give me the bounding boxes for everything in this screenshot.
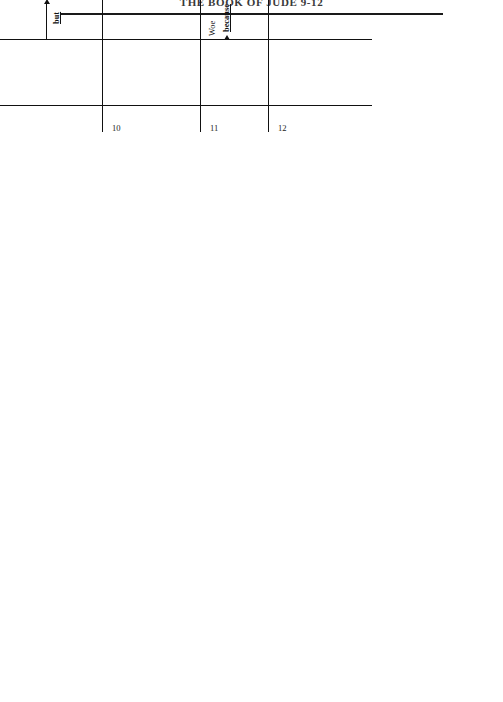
table-rule-v10-v11 <box>200 0 201 132</box>
diagram-table: V. Outline Conjunctions Work from main c… <box>0 0 372 132</box>
v9-but-lead <box>46 2 47 40</box>
arrow-but <box>44 0 50 4</box>
col-sep-outline-conj <box>0 39 372 40</box>
arrow-because <box>224 35 230 40</box>
v11-because: because <box>222 4 231 32</box>
worksheet-page: THE BOOK OF JUDE 9-12 V. Outline Conjunc… <box>0 0 503 702</box>
col-sep-v-outline <box>0 105 372 106</box>
v9-but: but <box>52 12 61 24</box>
verse-number-11: 11 <box>210 124 218 134</box>
verse-number-12: 12 <box>278 124 287 134</box>
diagram-sheet: V. Outline Conjunctions Work from main c… <box>0 0 372 132</box>
table-rule-v11-v12 <box>268 0 269 132</box>
verse-number-10: 10 <box>112 124 121 134</box>
v11-woe: Woe <box>208 21 217 36</box>
rotated-sheet-wrapper: V. Outline Conjunctions Work from main c… <box>0 0 503 702</box>
table-rule-v9-v10 <box>102 0 103 132</box>
